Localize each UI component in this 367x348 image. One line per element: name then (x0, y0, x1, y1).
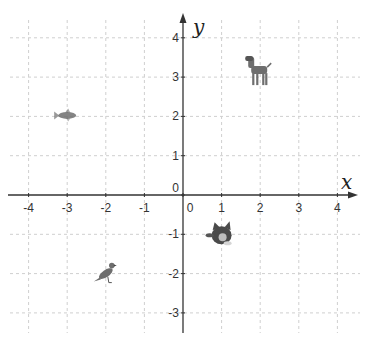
y-tick-label: -1 (168, 227, 179, 241)
y-tick-label: 2 (172, 109, 179, 123)
y-tick-label: -2 (168, 267, 179, 281)
y-axis-arrow-icon (180, 13, 187, 23)
y-tick-label: 4 (172, 31, 179, 45)
tick-labels: xy-4-3-2-101234-3-2-101234 (23, 15, 352, 320)
x-tick-label: 1 (218, 201, 225, 215)
y-tick-label: -3 (168, 306, 179, 320)
x-tick-label: -3 (62, 201, 73, 215)
x-tick-label: -2 (100, 201, 111, 215)
cat-icon (206, 221, 232, 245)
x-tick-label: 2 (257, 201, 264, 215)
x-tick-label: 3 (295, 201, 302, 215)
x-tick-label: 4 (334, 201, 341, 215)
fish-icon (54, 108, 76, 121)
y-tick-label: 0 (172, 181, 179, 195)
dog-icon (245, 56, 271, 85)
x-tick-label: 0 (187, 201, 194, 215)
x-tick-label: -1 (139, 201, 150, 215)
coordinate-plane: xy-4-3-2-101234-3-2-101234 (0, 0, 367, 348)
y-tick-label: 1 (172, 149, 179, 163)
grid (10, 20, 360, 333)
points (54, 56, 271, 283)
axes (8, 13, 358, 333)
x-tick-label: -4 (23, 201, 34, 215)
x-axis-label: x (341, 170, 352, 194)
y-tick-label: 3 (172, 70, 179, 84)
y-axis-label: y (192, 15, 205, 39)
